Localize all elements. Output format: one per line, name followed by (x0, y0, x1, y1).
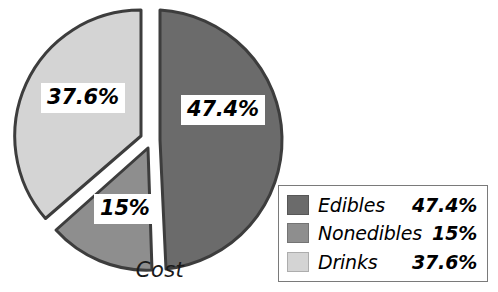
legend-value-nonedibles: 15% (432, 222, 481, 244)
legend-swatch-edibles (287, 195, 309, 215)
legend-item-edibles[interactable]: Edibles 47.4% (287, 192, 481, 219)
pie-slice-edibles[interactable] (160, 10, 282, 269)
legend-label-nonedibles: Nonedibles (318, 222, 422, 244)
pie-chart: 47.4% 15% 37.6% Cost Edibles 47.4% Noned… (0, 0, 498, 292)
legend-label-drinks: Drinks (318, 251, 377, 273)
legend-value-drinks: 37.6% (412, 251, 481, 273)
legend: Edibles 47.4% Nonedibles 15% Drinks 37.6… (278, 185, 488, 282)
slice-label-edibles: 47.4% (182, 96, 264, 124)
legend-item-nonedibles[interactable]: Nonedibles 15% (287, 220, 481, 247)
category-label: Cost (0, 258, 320, 282)
legend-swatch-nonedibles (287, 223, 309, 243)
legend-swatch-drinks (287, 252, 309, 272)
slice-label-nonedibles: 15% (95, 195, 155, 223)
legend-value-edibles: 47.4% (412, 194, 481, 216)
legend-label-edibles: Edibles (318, 194, 385, 216)
legend-item-drinks[interactable]: Drinks 37.6% (287, 248, 481, 275)
slice-label-drinks: 37.6% (42, 84, 124, 112)
